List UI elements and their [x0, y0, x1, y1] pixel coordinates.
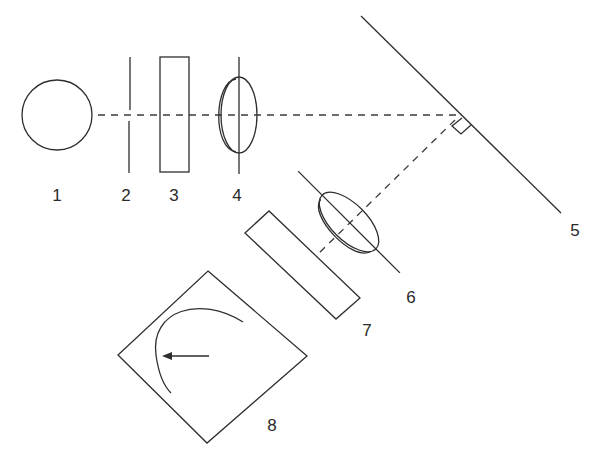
label-3: 3 — [169, 186, 178, 205]
label-1: 1 — [52, 186, 61, 205]
label-5: 5 — [570, 221, 579, 240]
arc-curve — [156, 309, 243, 393]
optical-axis-reflected — [317, 120, 455, 255]
label-4: 4 — [232, 186, 241, 205]
component-4-lens — [219, 57, 257, 174]
component-7-plate — [245, 211, 360, 319]
component-1-circle — [22, 80, 92, 150]
optical-diagram: 1 2 3 4 5 6 7 8 — [0, 0, 603, 456]
label-7: 7 — [362, 321, 371, 340]
component-6-lens — [284, 158, 413, 287]
arrow-left-icon — [162, 352, 172, 360]
label-6: 6 — [406, 288, 415, 307]
label-8: 8 — [267, 416, 276, 435]
label-2: 2 — [121, 186, 130, 205]
component-8-display — [118, 271, 307, 443]
